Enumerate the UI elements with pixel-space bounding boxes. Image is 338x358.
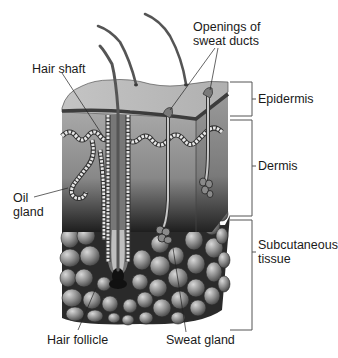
label-openings-of-sweat-ducts: Openings of sweat ducts: [193, 20, 260, 48]
label-dermis: Dermis: [258, 159, 298, 173]
label-hair-follicle: Hair follicle: [47, 333, 108, 347]
layer-brackets: [230, 82, 256, 330]
label-epidermis: Epidermis: [258, 92, 314, 106]
label-subcutaneous-tissue: Subcutaneous tissue: [258, 238, 338, 266]
label-oil-gland: Oil gland: [13, 191, 44, 219]
label-hair-shaft: Hair shaft: [32, 62, 86, 76]
label-sweat-gland: Sweat gland: [166, 333, 235, 347]
